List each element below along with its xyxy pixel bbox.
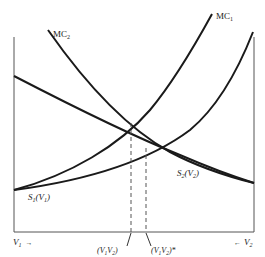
mc2-label: MC2 [53, 29, 70, 40]
mc2-curve [48, 30, 254, 183]
point-a-label: (V1V2) [97, 246, 118, 256]
s2-label: S2(V2) [177, 168, 199, 179]
mc1-curve [14, 14, 212, 190]
s1-label: S1(V1) [28, 192, 50, 203]
s1-curve [14, 32, 253, 190]
mc1-label: MC1 [216, 11, 233, 22]
s2-curve [14, 76, 254, 183]
pointer-a [127, 233, 131, 246]
v2-axis-label: ←V2 [234, 237, 253, 248]
diagram-canvas: MC1 MC2 S1(V1) S2(V2) V1→ ←V2 (V1V2) (V1… [0, 0, 265, 257]
pointer-b [146, 233, 151, 246]
v1-axis-label: V1→ [13, 237, 33, 248]
point-b-label: (V1V2)* [151, 246, 176, 256]
